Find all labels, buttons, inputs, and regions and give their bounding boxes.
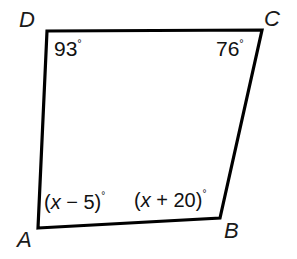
angle-label-A: (x − 5)° — [44, 192, 105, 212]
degree-symbol-A: ° — [101, 190, 105, 201]
operator-A: − — [61, 191, 84, 213]
angle-value-D: 93 — [54, 37, 77, 60]
operator-B: + — [151, 189, 174, 211]
vertex-label-C: C — [264, 8, 280, 30]
paren-open-A: ( — [44, 191, 51, 213]
degree-symbol-B: ° — [202, 188, 206, 199]
angle-label-D: 93° — [54, 38, 82, 59]
vertex-label-A: A — [17, 229, 32, 251]
variable-B: x — [141, 189, 151, 211]
degree-symbol-D: ° — [77, 37, 81, 49]
degree-symbol-C: ° — [239, 37, 243, 49]
paren-open-B: ( — [134, 189, 141, 211]
variable-A: x — [51, 191, 61, 213]
quadrilateral-diagram — [0, 0, 297, 259]
angle-value-C: 76 — [216, 37, 239, 60]
angle-label-B: (x + 20)° — [134, 190, 206, 210]
angle-label-C: 76° — [216, 38, 244, 59]
vertex-label-B: B — [224, 220, 239, 242]
constant-A: 5 — [83, 191, 94, 213]
vertex-label-D: D — [19, 9, 35, 31]
constant-B: 20 — [173, 189, 195, 211]
